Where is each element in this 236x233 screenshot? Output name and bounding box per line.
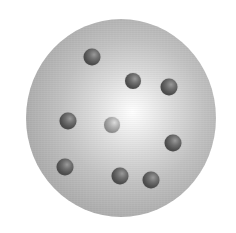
electron [57, 159, 74, 176]
electron [104, 117, 120, 133]
electron [84, 49, 101, 66]
electron [165, 135, 182, 152]
electron [125, 73, 141, 89]
electron [60, 113, 77, 130]
electron [161, 79, 178, 96]
electron [112, 168, 129, 185]
electron [143, 172, 160, 189]
positive-charge-sphere [26, 19, 216, 217]
atom-model-diagram: Plum pudding atomic model: gray positive… [0, 0, 236, 233]
diagram-description: Plum pudding atomic model: gray positive… [0, 0, 1, 1]
